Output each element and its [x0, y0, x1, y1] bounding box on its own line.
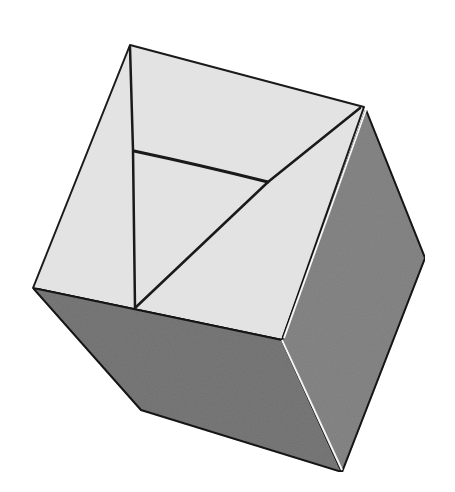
illustration-canvas: Cube drawing [0, 0, 455, 492]
cube-illustration [0, 0, 455, 492]
